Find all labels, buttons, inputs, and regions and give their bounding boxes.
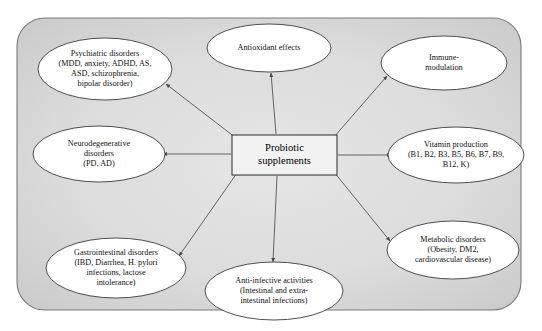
node-label-psychiatric-disorders-line-1: Psychiatric disorders	[71, 49, 139, 58]
node-label-immune-modulation-line-1: Immune-	[429, 53, 459, 62]
node-label-anti-infective-activities-line-2: (Intestinal and extra-	[240, 286, 308, 295]
node-label-gastrointestinal-disorders-line-1: Gastrointestinal disorders	[74, 248, 158, 257]
node-label-vitamin-production-line-3: B12, K)	[443, 160, 470, 169]
node-label-gastrointestinal-disorders-line-4: intolerance)	[96, 278, 135, 287]
node-label-vitamin-production-line-1: Vitamin production	[424, 140, 488, 149]
node-label-metabolic-disorders-line-1: Metabolic disorders	[420, 235, 485, 244]
node-label-anti-infective-activities-line-3: intestinal infections)	[240, 296, 307, 305]
node-immune-modulation[interactable]: Immune-modulation	[381, 36, 507, 90]
node-psychiatric-disorders[interactable]: Psychiatric disorders(MDD, anxiety, ADHD…	[38, 38, 172, 100]
node-label-psychiatric-disorders-line-3: ASD, schizophrenia,	[71, 69, 139, 78]
center-node[interactable]: Probioticsupplements	[232, 135, 337, 175]
node-metabolic-disorders[interactable]: Metabolic disorders(Obesity, DM2,cardiov…	[387, 221, 519, 279]
node-label-neurodegenerative-disorders-line-1: Neurodegenerative	[68, 139, 131, 148]
node-label-vitamin-production-line-2: (B1, B2, B3, B5, B6, B7, B9,	[408, 150, 504, 159]
center-label-line-1: Probiotic	[265, 142, 304, 153]
node-label-metabolic-disorders-line-3: cardiovascular disease)	[415, 255, 491, 264]
node-label-gastrointestinal-disorders-line-2: (IBD, Diarrhea, H. pylori	[74, 258, 158, 267]
node-label-immune-modulation-line-2: modulation	[425, 63, 462, 72]
node-label-anti-infective-activities-line-1: Anti-infective activities	[235, 276, 313, 285]
probiotic-effects-diagram: Psychiatric disorders(MDD, anxiety, ADHD…	[0, 0, 542, 331]
node-label-metabolic-disorders-line-2: (Obesity, DM2,	[427, 245, 478, 254]
node-vitamin-production[interactable]: Vitamin production(B1, B2, B3, B5, B6, B…	[388, 127, 524, 183]
node-label-psychiatric-disorders-line-4: bipolar disorder)	[78, 79, 133, 88]
center-label-line-2: supplements	[258, 155, 311, 166]
node-gastrointestinal-disorders[interactable]: Gastrointestinal disorders(IBD, Diarrhea…	[46, 238, 186, 298]
node-anti-infective-activities[interactable]: Anti-infective activities(Intestinal and…	[205, 262, 343, 320]
node-label-antioxidant-effects-line-1: Antioxidant effects	[238, 43, 301, 52]
node-neurodegenerative-disorders[interactable]: Neurodegenerativedisorders(PD, AD)	[33, 126, 165, 182]
diagram-canvas: Psychiatric disorders(MDD, anxiety, ADHD…	[0, 0, 542, 331]
node-label-psychiatric-disorders-line-2: (MDD, anxiety, ADHD, AS,	[59, 59, 152, 68]
node-label-neurodegenerative-disorders-line-3: (PD, AD)	[83, 159, 115, 168]
node-antioxidant-effects[interactable]: Antioxidant effects	[207, 24, 331, 72]
node-label-gastrointestinal-disorders-line-3: infections, lactose	[86, 268, 145, 277]
node-label-neurodegenerative-disorders-line-2: disorders	[84, 149, 114, 158]
